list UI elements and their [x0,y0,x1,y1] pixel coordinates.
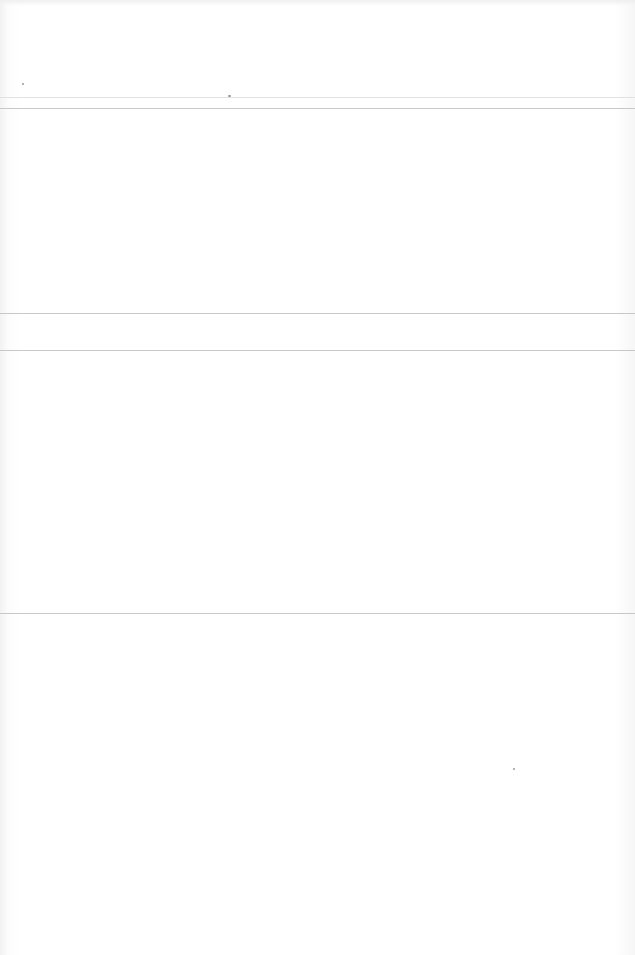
scan-edge-shadow [0,0,635,6]
horizontal-rule-3 [0,313,635,314]
scan-speck [513,768,515,770]
scan-speck [228,95,231,97]
horizontal-rule-5 [0,613,635,614]
horizontal-rule-2 [0,108,635,109]
blank-page [0,0,635,955]
horizontal-rule-1 [0,97,635,98]
scan-speck [22,83,24,85]
horizontal-rule-4 [0,350,635,351]
